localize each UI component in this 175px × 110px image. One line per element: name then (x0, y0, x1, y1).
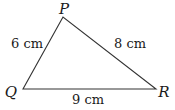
side-label-pr: 8 cm (114, 36, 146, 51)
side-label-qr: 9 cm (72, 92, 104, 107)
vertex-label-r: R (157, 83, 169, 101)
vertex-label-q: Q (5, 83, 17, 101)
vertex-label-p: P (58, 0, 70, 18)
side-label-pq: 6 cm (11, 36, 43, 51)
triangle-pqr (23, 17, 156, 89)
triangle-diagram: P Q R 6 cm 8 cm 9 cm (0, 0, 175, 110)
